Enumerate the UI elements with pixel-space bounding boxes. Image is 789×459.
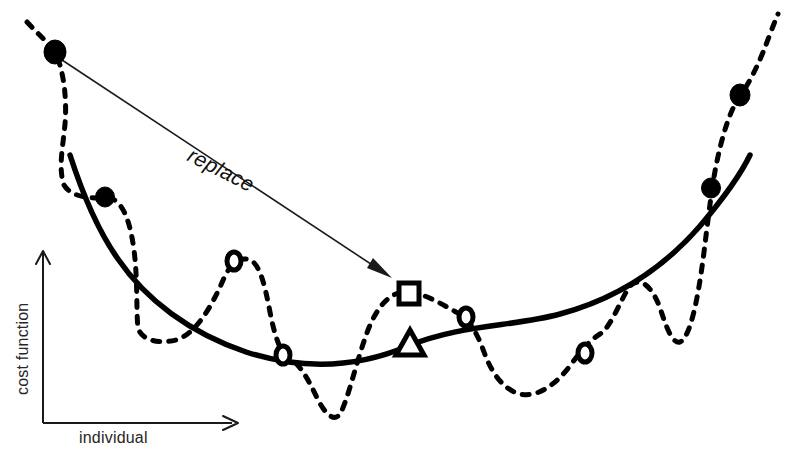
x-axis-label: individual — [79, 429, 148, 446]
marker-open-circle-1 — [227, 252, 241, 270]
marker-open-circle-3 — [459, 308, 473, 326]
marker-open-square-offspring — [399, 283, 419, 304]
axes-group — [36, 251, 238, 430]
marker-open-circle-4 — [578, 344, 592, 362]
replace-label: replace — [184, 143, 258, 196]
y-axis-label: cost function — [14, 303, 31, 395]
replace-arrow-head — [367, 258, 392, 278]
marker-open-triangle-best — [396, 330, 424, 355]
marker-filled-circle-3 — [702, 178, 721, 198]
diagram-canvas: cost function individual replace — [0, 0, 789, 459]
markers-group — [44, 40, 750, 364]
marker-filled-circle-2 — [96, 187, 115, 207]
marker-open-circle-2 — [276, 346, 290, 364]
cost-function-diagram: cost function individual replace — [0, 0, 789, 459]
marker-filled-circle-4 — [730, 84, 750, 106]
marker-filled-circle-1 — [44, 40, 66, 64]
